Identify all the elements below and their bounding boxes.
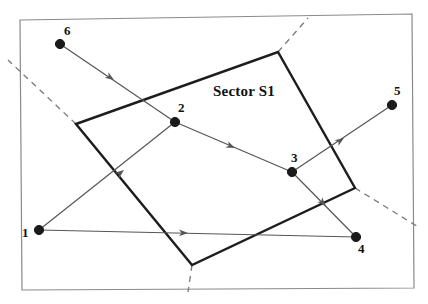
node-6-label: 6 bbox=[64, 24, 71, 37]
node-3-dot[interactable] bbox=[287, 167, 296, 176]
edge-1-to-2-line bbox=[39, 122, 175, 230]
edge-1-to-4 bbox=[39, 229, 356, 237]
sector-name-label: Sector S1 bbox=[213, 83, 275, 100]
edge-3-to-4 bbox=[292, 172, 356, 237]
outer-border bbox=[20, 14, 414, 290]
node-3-label: 3 bbox=[291, 151, 298, 164]
node-5-dot[interactable] bbox=[387, 100, 396, 109]
dashed-top bbox=[278, 18, 308, 52]
node-6-dot[interactable] bbox=[55, 39, 64, 48]
edge-3-to-5 bbox=[292, 105, 392, 172]
node-2-label: 2 bbox=[178, 101, 185, 114]
edge-2-to-3-arrowhead bbox=[225, 141, 236, 151]
dashed-left bbox=[8, 60, 76, 124]
node-5-label: 5 bbox=[394, 84, 401, 97]
node-1-dot[interactable] bbox=[34, 225, 43, 234]
node-1-label: 1 bbox=[22, 226, 29, 239]
edge-1-to-2 bbox=[39, 122, 175, 230]
sector-routing-diagram: 123456Sector S1 bbox=[0, 0, 428, 304]
dashed-bottom bbox=[188, 265, 192, 292]
diagram-canvas bbox=[0, 0, 428, 304]
node-4-label: 4 bbox=[358, 242, 365, 255]
dashed-right bbox=[355, 188, 420, 228]
node-2-dot[interactable] bbox=[170, 117, 179, 126]
edge-1-to-4-line bbox=[39, 230, 356, 237]
edge-2-to-3 bbox=[175, 122, 292, 172]
